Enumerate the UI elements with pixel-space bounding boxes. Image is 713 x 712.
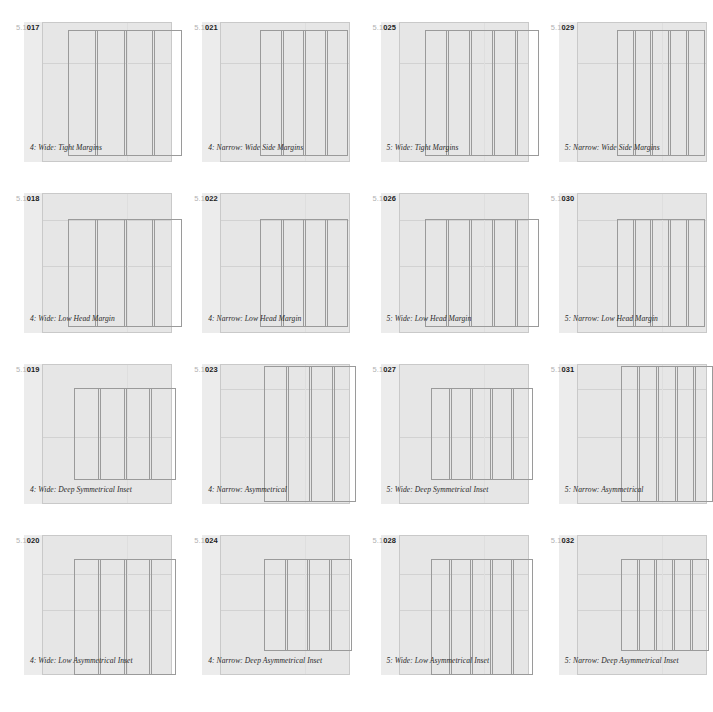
panel-section-number: 5.1 [373,365,384,374]
panel-figure-number: 018 [27,194,40,203]
panel-caption: 5: Wide: Low Head Margin [387,314,472,324]
column-gutter [515,220,518,326]
panel-figure-number: 025 [383,23,396,32]
column-gutter [693,367,696,501]
panel-section-number: 5.1 [194,365,205,374]
column-gutter [654,560,657,650]
panel-id-label: 5.1026 [373,194,397,203]
panel-section-number: 5.1 [194,194,205,203]
panel-section-number: 5.1 [16,536,27,545]
type-area-block [621,366,713,502]
column-gutter [656,367,659,501]
column-gutter [303,220,306,326]
panel-id-label: 5.1030 [551,194,575,203]
column-gutter [124,31,127,155]
specimen-panel[interactable]: 5.10315: Narrow: Asymmetrical [535,342,713,513]
panel-caption: 4: Wide: Low Head Margin [30,314,115,324]
column-gutter [637,560,640,650]
specimen-panel[interactable]: 5.10325: Narrow: Deep Asymmetrical Inset [535,513,713,684]
column-gutter [650,220,653,326]
specimen-panel[interactable]: 5.10224: Narrow: Low Head Margin [178,171,356,342]
specimen-panel[interactable]: 5.10174: Wide: Tight Margins [0,0,178,171]
panel-figure-number: 031 [561,365,574,374]
column-gutter [285,560,288,650]
column-gutter [492,220,495,326]
type-area-block [425,219,539,327]
column-gutter [446,31,449,155]
type-area-block [617,30,705,156]
specimen-panel[interactable]: 5.10265: Wide: Low Head Margin [357,171,535,342]
panel-section-number: 5.1 [551,365,562,374]
panel-id-label: 5.1024 [194,536,218,545]
column-gutter [668,31,671,155]
layout-diagram [559,22,707,162]
panel-section-number: 5.1 [373,194,384,203]
column-gutter [515,31,518,155]
panel-figure-number: 022 [205,194,218,203]
column-gutter [668,220,671,326]
panel-section-number: 5.1 [194,23,205,32]
specimen-panel[interactable]: 5.10244: Narrow: Deep Asymmetrical Inset [178,513,356,684]
panel-caption: 5: Wide: Low Asymmetrical Inset [387,656,490,666]
panel-caption: 4: Narrow: Low Head Margin [208,314,301,324]
panel-caption: 5: Narrow: Asymmetrical [565,485,644,495]
panel-figure-number: 024 [205,536,218,545]
column-gutter [325,220,328,326]
layout-diagram [202,364,350,504]
column-gutter [325,31,328,155]
column-gutter [152,31,155,155]
specimen-grid: 5.10174: Wide: Tight Margins5.10214: Nar… [0,0,713,712]
column-gutter [449,389,452,479]
specimen-panel[interactable]: 5.10204: Wide: Low Asymmetrical Inset [0,513,178,684]
panel-id-label: 5.1017 [16,23,40,32]
column-gutter [95,220,98,326]
specimen-panel[interactable]: 5.10305: Narrow: Low Head Margin [535,171,713,342]
column-gutter [511,389,514,479]
column-gutter [490,560,493,674]
column-gutter [469,31,472,155]
panel-id-label: 5.1025 [373,23,397,32]
panel-id-label: 5.1031 [551,365,575,374]
panel-id-label: 5.1021 [194,23,218,32]
specimen-sheet: 5.10174: Wide: Tight Margins5.10214: Nar… [0,0,713,712]
column-gutter [329,560,332,650]
column-gutter [690,560,693,650]
panel-id-label: 5.1018 [16,194,40,203]
panel-section-number: 5.1 [373,536,384,545]
column-gutter [307,560,310,650]
type-area-block [68,30,182,156]
panel-id-label: 5.1028 [373,536,397,545]
column-gutter [490,389,493,479]
panel-figure-number: 019 [27,365,40,374]
specimen-panel[interactable]: 5.10285: Wide: Low Asymmetrical Inset [357,513,535,684]
panel-figure-number: 021 [205,23,218,32]
type-area-block [617,219,705,327]
column-gutter [511,560,514,674]
layout-diagram [202,193,350,333]
column-gutter [637,367,640,501]
specimen-panel[interactable]: 5.10184: Wide: Low Head Margin [0,171,178,342]
panel-caption: 4: Wide: Low Asymmetrical Inset [30,656,133,666]
specimen-panel[interactable]: 5.10194: Wide: Deep Symmetrical Inset [0,342,178,513]
specimen-panel[interactable]: 5.10214: Narrow: Wide Side Margins [178,0,356,171]
specimen-panel[interactable]: 5.10295: Narrow: Wide Side Margins [535,0,713,171]
column-gutter [633,31,636,155]
column-gutter [124,220,127,326]
type-area-block [425,30,539,156]
specimen-panel[interactable]: 5.10234: Narrow: Asymmetrical [178,342,356,513]
column-gutter [633,220,636,326]
specimen-panel[interactable]: 5.10255: Wide: Tight Margins [357,0,535,171]
layout-diagram [24,364,172,504]
column-gutter [675,367,678,501]
column-gutter [332,367,335,501]
column-gutter [469,220,472,326]
layout-diagram [381,364,529,504]
layout-diagram [559,193,707,333]
panel-id-label: 5.1029 [551,23,575,32]
column-gutter [286,367,289,501]
type-area-block [260,219,348,327]
specimen-panel[interactable]: 5.10275: Wide: Deep Symmetrical Inset [357,342,535,513]
panel-caption: 5: Narrow: Wide Side Margins [565,143,660,153]
panel-caption: 4: Narrow: Asymmetrical [208,485,287,495]
layout-diagram [559,535,707,675]
